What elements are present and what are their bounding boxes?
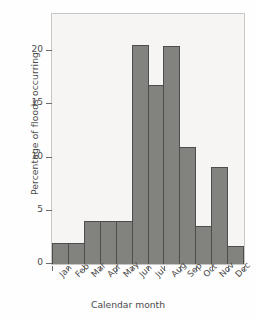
- x-tick-mark: [52, 266, 53, 271]
- y-tick-5: 5: [46, 210, 52, 211]
- x-axis-title: Calendar month: [0, 299, 256, 310]
- bar-sep: [179, 147, 196, 264]
- chart-figure: Percentage of floods occurring 05101520 …: [0, 0, 256, 319]
- x-tick-mark: [132, 266, 133, 271]
- x-tick-mark: [84, 266, 85, 271]
- y-tick-label-10: 10: [32, 151, 43, 161]
- y-tick-label-5: 5: [37, 204, 43, 214]
- y-tick-label-20: 20: [32, 44, 43, 54]
- y-tick-label-0: 0: [37, 257, 43, 267]
- bar-oct: [195, 226, 212, 264]
- x-tick-label-jul: Jul: [153, 264, 168, 279]
- x-tick-mark: [196, 266, 197, 271]
- y-tick-label-15: 15: [32, 97, 43, 107]
- bar-apr: [100, 221, 117, 264]
- x-tick-mark: [100, 266, 101, 271]
- x-tick-mark: [68, 266, 69, 271]
- x-tick-mark: [180, 266, 181, 271]
- x-tick-mark: [148, 266, 149, 271]
- x-tick-mark: [244, 266, 245, 271]
- y-tick-0: 0: [46, 263, 52, 264]
- x-tick-mark: [164, 266, 165, 271]
- bar-nov: [211, 167, 228, 264]
- x-tick-mark: [228, 266, 229, 271]
- bar-aug: [163, 46, 180, 264]
- x-tick-mark: [212, 266, 213, 271]
- bar-jun: [132, 45, 149, 264]
- y-tick-10: 10: [46, 157, 52, 158]
- bar-mar: [84, 221, 101, 264]
- bar-jul: [148, 85, 165, 264]
- bar-may: [116, 221, 133, 264]
- y-tick-20: 20: [46, 50, 52, 51]
- y-tick-15: 15: [46, 103, 52, 104]
- plot-area: 05101520 JanFebMarAprMayJunJulAugSepOctN…: [51, 13, 245, 265]
- x-tick-mark: [116, 266, 117, 271]
- bars-container: [52, 14, 244, 264]
- x-tick-label-jan: Jan: [57, 262, 74, 279]
